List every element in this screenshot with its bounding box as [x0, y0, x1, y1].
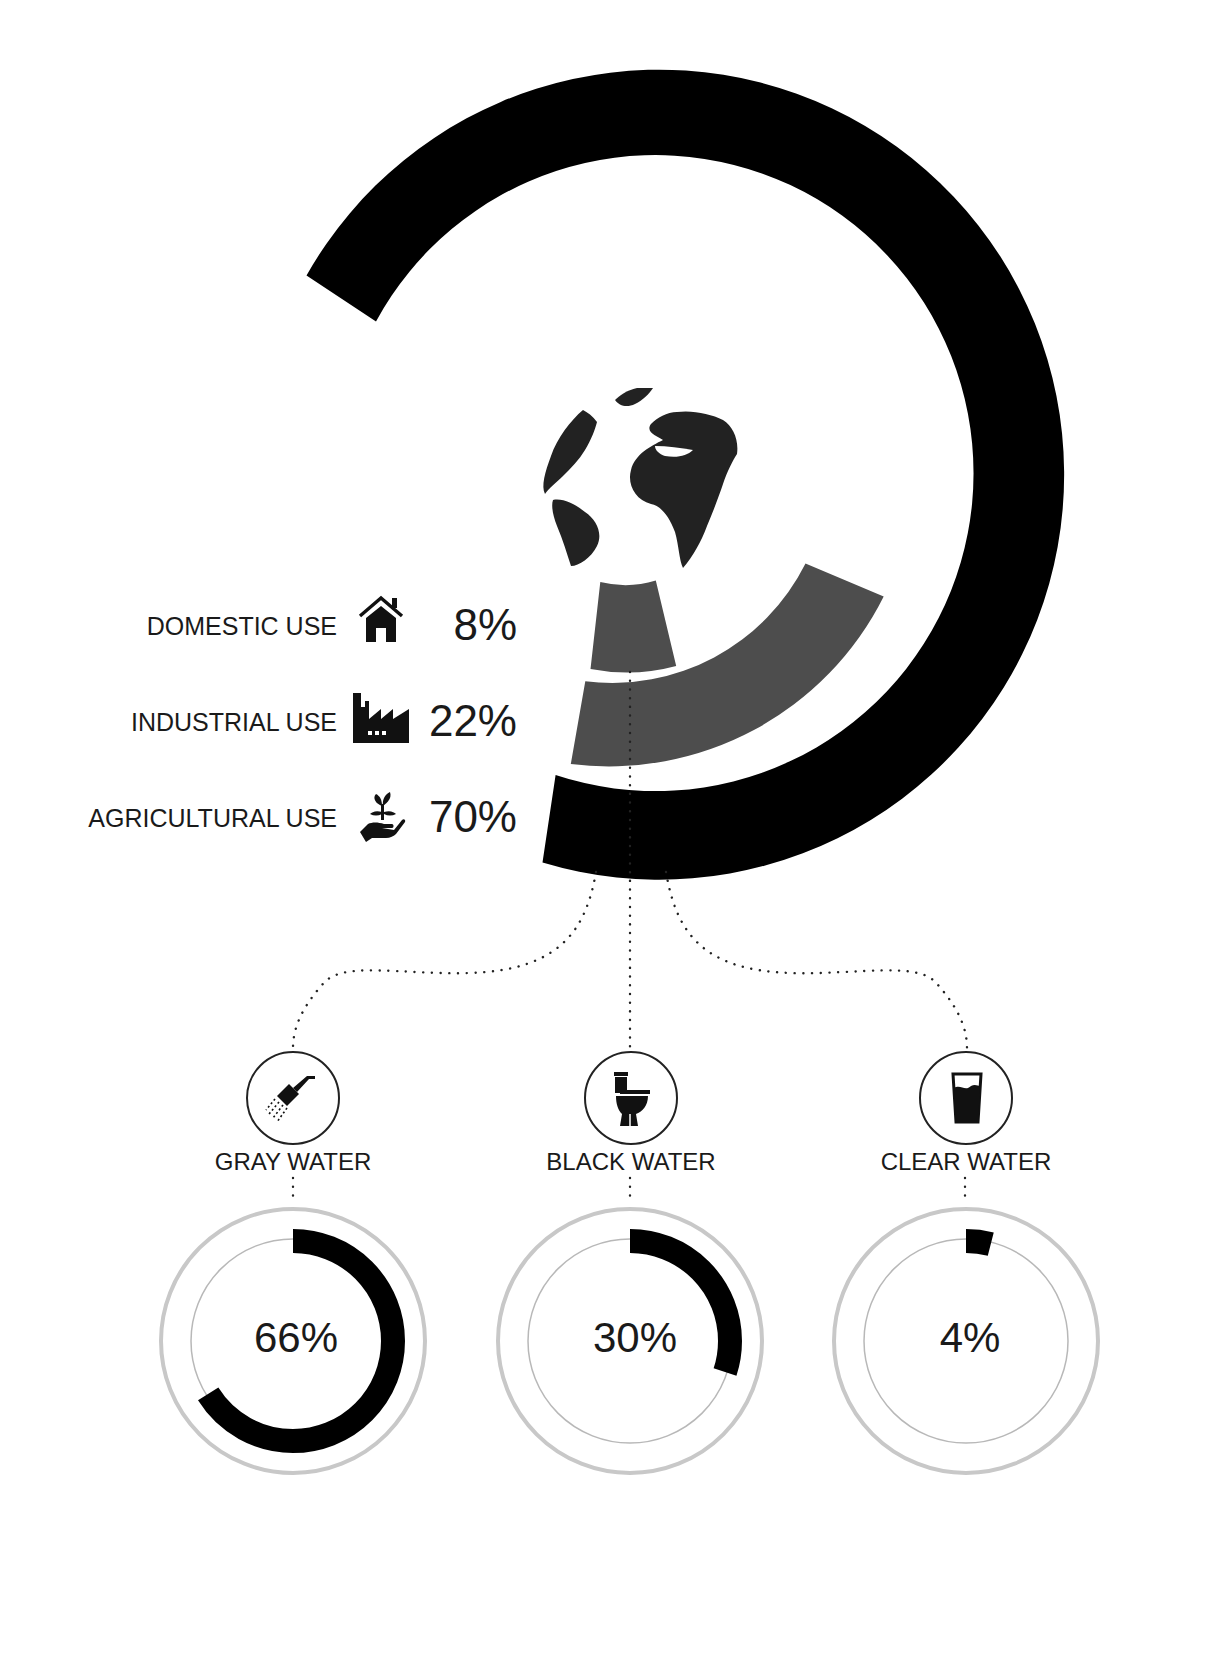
glass-icon — [951, 1072, 983, 1124]
toilet-icon — [612, 1070, 652, 1126]
house-icon — [358, 594, 404, 642]
agricultural-use-percent: 70% — [429, 792, 517, 842]
clear-water-percent: 4% — [940, 1314, 1001, 1362]
factory-icon — [353, 693, 409, 743]
water-usage-infographic: DOMESTIC USE 8% INDUSTRIAL USE 22% AGRIC… — [0, 0, 1225, 1660]
industrial-use-label: INDUSTRIAL USE — [131, 708, 337, 737]
black-water-label: BLACK WATER — [546, 1148, 715, 1176]
agricultural-use-label: AGRICULTURAL USE — [88, 804, 337, 833]
domestic-arc — [591, 581, 677, 673]
connector-left — [293, 872, 596, 1048]
industrial-use-percent: 22% — [429, 696, 517, 746]
gray-water-percent: 66% — [254, 1314, 338, 1362]
clear-water-label: CLEAR WATER — [881, 1148, 1052, 1176]
gray-water-label: GRAY WATER — [215, 1148, 371, 1176]
globe-icon — [527, 376, 747, 571]
hand-plant-icon — [360, 792, 406, 842]
black-water-percent: 30% — [593, 1314, 677, 1362]
domestic-use-percent: 8% — [453, 600, 517, 650]
domestic-use-label: DOMESTIC USE — [147, 612, 337, 641]
shower-icon — [263, 1070, 323, 1126]
connector-right — [666, 872, 967, 1048]
